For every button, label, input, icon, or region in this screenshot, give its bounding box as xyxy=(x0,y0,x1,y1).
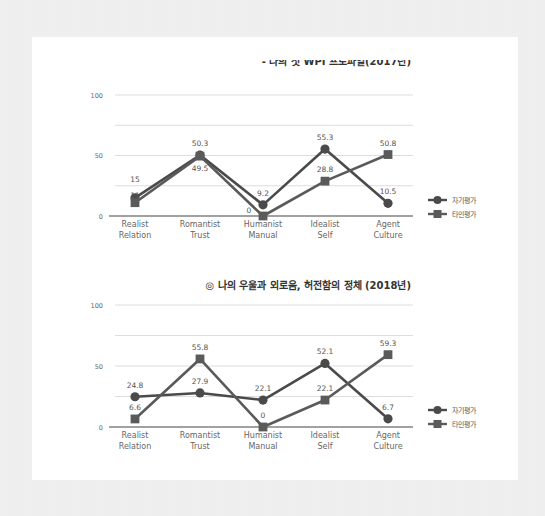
data-point-circle xyxy=(383,414,392,423)
data-label: 22.1 xyxy=(255,384,272,393)
x-category-label: Realist xyxy=(122,431,149,440)
y-tick-label: 50 xyxy=(95,363,103,371)
legend-label: 타인평가 xyxy=(452,210,477,219)
data-point-square xyxy=(196,355,205,364)
x-category-label: Self xyxy=(317,442,332,451)
data-label: 0 xyxy=(247,206,252,215)
data-point-square xyxy=(131,415,140,424)
data-label: 11 xyxy=(130,191,140,200)
x-category-label: Idealist xyxy=(310,431,339,440)
x-category-label: Humanist xyxy=(244,220,282,229)
x-category-label: Idealist xyxy=(310,220,339,229)
x-category-label: Romantist xyxy=(180,431,221,440)
x-category-label: Relation xyxy=(119,231,152,240)
x-category-label: Trust xyxy=(189,442,209,451)
data-point-circle xyxy=(320,144,329,153)
data-point-circle xyxy=(383,199,392,208)
x-category-label: Agent xyxy=(376,431,400,440)
data-label: 6.7 xyxy=(382,403,394,412)
legend-marker-square xyxy=(434,210,442,218)
y-tick-label: 0 xyxy=(99,424,103,432)
x-category-label: Realist xyxy=(122,220,149,229)
chart-2017: ◎ ‘로맨인 줄 알았는데, 엠자(M) 였어!’- 나의 첫 WPI 프로파일… xyxy=(0,60,545,290)
data-label: 50.3 xyxy=(192,139,209,148)
data-label: 0 xyxy=(261,411,266,420)
data-label: 55.3 xyxy=(317,133,334,142)
legend-item-self: 자기평가 xyxy=(428,196,477,205)
x-category-label: Manual xyxy=(248,442,277,451)
data-label: 59.3 xyxy=(380,339,397,348)
legend-label: 타인평가 xyxy=(452,420,477,429)
data-label: 52.1 xyxy=(317,347,334,356)
data-label: 50.8 xyxy=(380,139,397,148)
x-category-label: Humanist xyxy=(244,431,282,440)
data-point-circle xyxy=(258,200,267,209)
data-label: 27.9 xyxy=(192,377,209,386)
data-point-circle xyxy=(258,395,267,404)
data-label: 9.2 xyxy=(257,189,269,198)
chart-2018: ◎ 나의 우울과 외로움, 허전함의 정체 (2018년)050100Reali… xyxy=(0,270,545,500)
data-label: 22.1 xyxy=(317,384,334,393)
x-category-label: Self xyxy=(317,231,332,240)
data-label: 28.8 xyxy=(317,165,334,174)
legend-label: 자기평가 xyxy=(452,196,477,205)
data-label: 55.8 xyxy=(192,343,209,352)
y-tick-label: 0 xyxy=(99,213,103,221)
data-point-circle xyxy=(195,388,204,397)
legend-marker-square xyxy=(434,420,442,428)
x-category-label: Manual xyxy=(248,231,277,240)
data-label: 10.5 xyxy=(380,187,397,196)
data-label: 6.6 xyxy=(129,403,141,412)
legend-item-other: 타인평가 xyxy=(428,210,477,219)
data-point-square xyxy=(321,177,330,186)
x-category-label: Culture xyxy=(373,231,402,240)
data-point-square xyxy=(384,350,393,359)
chart-title: - 나의 첫 WPI 프로파일(2017년) xyxy=(262,60,411,67)
data-point-circle xyxy=(130,392,139,401)
x-category-label: Culture xyxy=(373,442,402,451)
data-point-square xyxy=(196,152,205,161)
y-tick-label: 100 xyxy=(91,302,103,310)
y-tick-label: 100 xyxy=(91,92,103,100)
x-category-label: Trust xyxy=(189,231,209,240)
legend-item-self: 자기평가 xyxy=(428,406,477,415)
data-point-circle xyxy=(320,359,329,368)
x-category-label: Romantist xyxy=(180,220,221,229)
data-label: 24.8 xyxy=(127,381,144,390)
data-point-square xyxy=(259,212,268,221)
x-category-label: Agent xyxy=(376,220,400,229)
legend-marker-circle xyxy=(434,196,442,204)
x-category-label: Relation xyxy=(119,442,152,451)
data-label: 15 xyxy=(130,175,140,184)
y-tick-label: 50 xyxy=(95,152,103,160)
chart-title: ◎ 나의 우울과 외로움, 허전함의 정체 (2018년) xyxy=(206,279,411,291)
legend-label: 자기평가 xyxy=(452,406,477,415)
data-point-square xyxy=(384,150,393,159)
data-point-square xyxy=(259,423,268,432)
data-label: 49.5 xyxy=(192,164,209,173)
legend-marker-circle xyxy=(434,406,442,414)
data-point-square xyxy=(321,396,330,405)
legend-item-other: 타인평가 xyxy=(428,420,477,429)
